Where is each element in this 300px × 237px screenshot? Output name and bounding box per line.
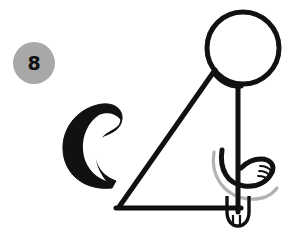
drawing-canvas: 8 (0, 0, 300, 237)
hind-leg-curve (221, 150, 272, 186)
hind-paw-toe-line-1 (260, 166, 271, 171)
body-left-side (119, 70, 215, 207)
dog-line-drawing (0, 0, 300, 237)
head-circle (207, 12, 279, 84)
badge-number-label: 8 (13, 42, 55, 84)
hind-paw-curl (241, 159, 273, 172)
step-number-badge: 8 (13, 42, 55, 84)
